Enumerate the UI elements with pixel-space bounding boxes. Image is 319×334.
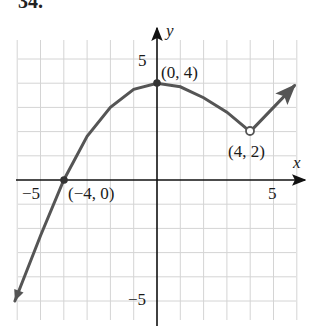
x-tick-neg5: −5 [22, 184, 40, 203]
x-tick-pos5: 5 [268, 184, 277, 203]
y-tick-neg5: −5 [128, 290, 146, 309]
y-axis-label: y [164, 21, 174, 40]
x-axis-label: x [292, 153, 301, 172]
function-graph: x y −5 5 5 −5 (0, 4) (−4, 0) (4, 2) [0, 0, 319, 334]
point-neg4-0 [60, 176, 68, 184]
point-label-4-2: (4, 2) [228, 142, 265, 161]
point-label-neg4-0: (−4, 0) [68, 184, 114, 203]
curve-piece-parabola [15, 83, 250, 301]
point-label-0-4: (0, 4) [161, 63, 198, 82]
curve-piece-ray [250, 86, 294, 132]
y-tick-pos5: 5 [138, 51, 147, 70]
open-point-4-2 [246, 127, 254, 135]
point-0-4 [153, 79, 161, 87]
